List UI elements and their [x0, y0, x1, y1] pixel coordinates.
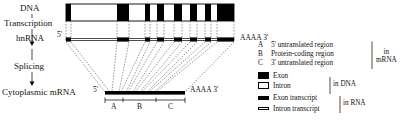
intron-swatch-icon — [258, 82, 269, 89]
legend-row-exon-transcript: Exon transcript — [258, 93, 418, 102]
legend-row-exon: Exon — [258, 71, 418, 80]
legend-row-intron-transcript: Intron transcript — [258, 104, 418, 113]
exon-swatch-icon — [258, 72, 269, 79]
legend-text-intron: Intron — [273, 82, 291, 90]
exon-transcript-swatch-icon — [258, 96, 269, 100]
intron-transcript-swatch-icon — [258, 107, 269, 111]
legend-key-c: C — [258, 59, 271, 67]
region-label-a: A — [111, 103, 116, 111]
mrna-track — [105, 91, 185, 95]
region-label-b: B — [137, 103, 142, 111]
hnrna-track — [66, 37, 234, 41]
splicing-connectors — [66, 42, 234, 92]
legend-group-mrna-line2: mRNA — [376, 56, 397, 64]
gene-expression-diagram: DNA Transcription hnRNA Splicing Cytopla… — [0, 0, 418, 122]
region-label-c: C — [168, 103, 173, 111]
transcription-connectors — [66, 21, 234, 38]
legend-text-intron-transcript: Intron transcript — [273, 105, 320, 113]
legend-text-a: 5' untranslated region — [271, 41, 333, 49]
legend-group-label-mrna: in mRNA — [376, 49, 397, 64]
legend-group-label-rna: in RNA — [343, 100, 366, 108]
legend-key-b: B — [258, 50, 271, 58]
arrow-splicing — [30, 49, 35, 86]
arrow-transcription — [30, 14, 35, 46]
legend-group-label-dna: in DNA — [333, 81, 356, 89]
legend-text-exon-transcript: Exon transcript — [273, 94, 317, 102]
dna-track — [66, 4, 234, 21]
legend-text-b: Protein-coding region — [271, 50, 334, 58]
legend-text-exon: Exon — [273, 72, 288, 80]
legend-key-a: A — [258, 41, 271, 49]
legend-text-c: 3' untranslated region — [271, 59, 333, 67]
